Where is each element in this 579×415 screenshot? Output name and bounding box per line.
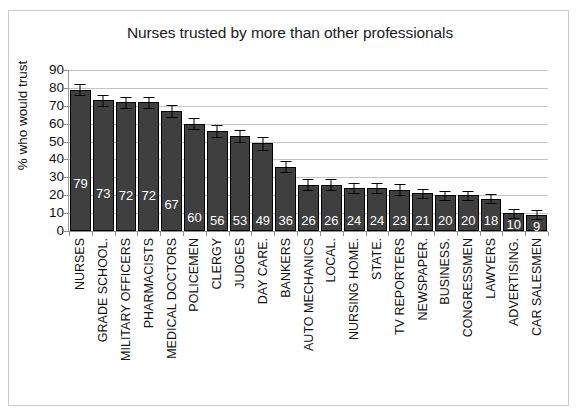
- error-bar-cap-lower: [257, 150, 268, 151]
- y-tick-mark: [64, 70, 68, 71]
- y-tick-label: 70: [34, 99, 64, 113]
- error-bar-cap-lower: [463, 200, 474, 201]
- bar[interactable]: 67: [161, 111, 182, 231]
- x-tick-label-wrap: CONGRESSMEN: [468, 238, 481, 337]
- error-bar-cap-upper: [371, 183, 382, 184]
- y-tick-label: 80: [34, 81, 64, 95]
- error-bar: [80, 84, 81, 95]
- x-tick-label: BUSINESS.: [439, 238, 452, 305]
- bar-value-label: 72: [139, 189, 158, 202]
- x-tick-label: NURSING HOME.: [348, 238, 361, 340]
- x-tick-mark: [229, 232, 230, 236]
- bar-slot: 49: [251, 70, 274, 231]
- x-tick-mark: [160, 232, 161, 236]
- bar-slot: 72: [115, 70, 138, 231]
- bar-slot: 26: [297, 70, 320, 231]
- bar[interactable]: 72: [116, 102, 137, 231]
- x-tick-label-wrap: TV REPORTERS: [400, 238, 413, 335]
- error-bar-cap-lower: [121, 108, 132, 109]
- bar[interactable]: 26: [321, 185, 342, 232]
- bar[interactable]: 24: [367, 188, 388, 231]
- bar-slot: 9: [525, 70, 548, 231]
- x-tick-label-wrap: POLICEMEN: [194, 238, 207, 312]
- bar[interactable]: 49: [252, 143, 273, 231]
- bar-value-label: 73: [94, 187, 113, 200]
- bar[interactable]: 60: [184, 124, 205, 231]
- error-bar-cap-upper: [143, 97, 154, 98]
- x-tick-mark: [251, 232, 252, 236]
- bar[interactable]: 73: [93, 100, 114, 231]
- error-bar: [126, 97, 127, 108]
- bar-slot: 20: [457, 70, 480, 231]
- error-bar-cap-lower: [394, 195, 405, 196]
- error-bar: [308, 179, 309, 190]
- x-tick-mark: [366, 232, 367, 236]
- error-bar: [240, 130, 241, 143]
- error-bar-cap-upper: [280, 161, 291, 162]
- bar-value-label: 24: [368, 214, 387, 227]
- x-tick-mark: [343, 232, 344, 236]
- y-tick-mark: [64, 213, 68, 214]
- bar[interactable]: 72: [138, 102, 159, 231]
- bar-value-label: 53: [231, 214, 250, 227]
- x-tick-mark: [115, 232, 116, 236]
- bar-value-label: 9: [527, 220, 546, 233]
- x-tick-label-wrap: BANKERS: [286, 238, 299, 298]
- x-tick-label: MEDICAL DOCTORS: [165, 238, 178, 359]
- x-tick-label-wrap: GRADE SCHOOL.: [103, 238, 116, 342]
- y-tick-label: 0: [34, 224, 64, 238]
- x-tick-label: DAY CARE.: [257, 238, 270, 304]
- x-tick-label-wrap: PHARMACISTS: [149, 238, 162, 328]
- bar[interactable]: 21: [412, 193, 433, 231]
- error-bar-cap-lower: [189, 129, 200, 130]
- bar-slot: 18: [480, 70, 503, 231]
- x-tick-label: STATE.: [371, 238, 384, 280]
- x-tick-label-wrap: NURSES: [80, 238, 93, 290]
- x-tick-label-wrap: MEDICAL DOCTORS: [172, 238, 185, 359]
- bar[interactable]: 36: [275, 167, 296, 231]
- error-bar-cap-lower: [143, 108, 154, 109]
- error-bar-cap-lower: [280, 172, 291, 173]
- bar-value-label: 26: [322, 214, 341, 227]
- bar-value-label: 21: [413, 214, 432, 227]
- x-tick-label-wrap: AUTO MECHANICS: [309, 238, 322, 351]
- y-tick-label: 20: [34, 188, 64, 202]
- x-tick-mark: [274, 232, 275, 236]
- error-bar-cap-lower: [75, 95, 86, 96]
- y-tick-label: 30: [34, 171, 64, 185]
- x-tick-label: BANKERS: [279, 238, 292, 298]
- y-tick-label: 90: [34, 63, 64, 77]
- x-tick-label: AUTO MECHANICS: [302, 238, 315, 351]
- bar[interactable]: 56: [207, 131, 228, 231]
- error-bar-cap-lower: [98, 106, 109, 107]
- error-bar-cap-lower: [235, 142, 246, 143]
- bar-value-label: 20: [436, 214, 455, 227]
- x-tick-mark: [548, 232, 549, 236]
- bar-value-label: 20: [459, 214, 478, 227]
- bar-value-label: 79: [71, 177, 90, 190]
- error-bar-cap-lower: [371, 193, 382, 194]
- x-tick-mark: [411, 232, 412, 236]
- bar[interactable]: 24: [344, 188, 365, 231]
- error-bar-cap-lower: [326, 190, 337, 191]
- x-tick-mark: [297, 232, 298, 236]
- bar-value-label: 49: [253, 214, 272, 227]
- bar[interactable]: 79: [70, 90, 91, 231]
- error-bar-cap-lower: [508, 218, 519, 219]
- error-bar: [468, 191, 469, 200]
- x-tick-label-wrap: LAWYERS: [491, 238, 504, 299]
- x-tick-mark: [434, 232, 435, 236]
- x-tick-mark: [525, 232, 526, 236]
- error-bar-cap-upper: [75, 84, 86, 85]
- bar[interactable]: 26: [298, 185, 319, 232]
- x-tick-mark: [480, 232, 481, 236]
- bar-value-label: 60: [185, 211, 204, 224]
- bar[interactable]: 53: [230, 136, 251, 231]
- bar-slot: 73: [92, 70, 115, 231]
- x-tick-label-wrap: DAY CARE.: [263, 238, 276, 304]
- error-bar-cap-lower: [417, 198, 428, 199]
- x-tick-label-wrap: BUSINESS.: [445, 238, 458, 305]
- error-bar-cap-upper: [235, 130, 246, 131]
- bar-slot: 24: [366, 70, 389, 231]
- error-bar-cap-lower: [212, 137, 223, 138]
